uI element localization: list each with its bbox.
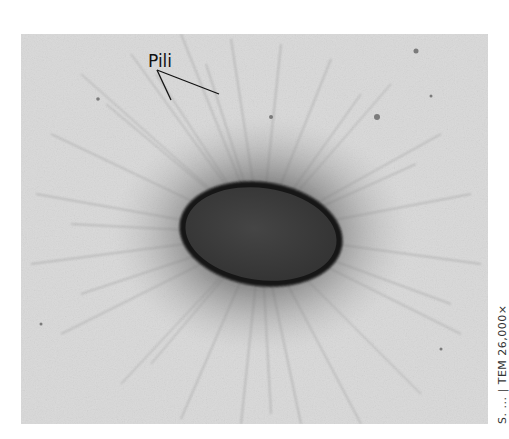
pili-label: Pili [148, 51, 172, 71]
micrograph-canvas [21, 34, 488, 424]
tem-micrograph [21, 34, 488, 424]
photo-credit: S. ... | TEM 26,000× [496, 304, 509, 424]
